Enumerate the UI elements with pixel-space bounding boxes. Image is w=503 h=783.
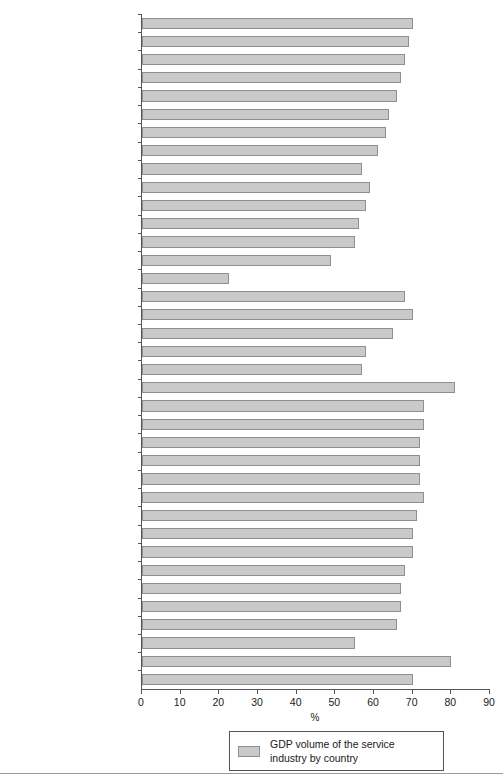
- bar-row: USA: [142, 652, 489, 670]
- y-axis-tick: [138, 360, 142, 361]
- bar: [142, 637, 355, 648]
- bar: [142, 127, 386, 138]
- bar-row: Portugal: [142, 579, 489, 597]
- bar: [142, 419, 424, 430]
- bar: [142, 510, 417, 521]
- y-axis-tick: [138, 142, 142, 143]
- x-axis-tick: [450, 689, 451, 694]
- y-axis-tick: [138, 69, 142, 70]
- x-axis-tick-label: 30: [237, 696, 277, 708]
- bar-row: Finland: [142, 616, 489, 634]
- legend-label-line1: GDP volume of the service: [270, 738, 395, 750]
- bar: [142, 583, 401, 594]
- bar-row: Austria: [142, 598, 489, 616]
- bar-row: Denmark: [142, 433, 489, 451]
- y-axis-tick: [138, 123, 142, 124]
- y-axis-tick: [138, 324, 142, 325]
- y-axis-tick: [138, 561, 142, 562]
- bar-row: Bulgaria: [142, 178, 489, 196]
- y-axis-tick: [138, 433, 142, 434]
- y-axis-tick: [138, 342, 142, 343]
- x-axis-tick-label: 90: [469, 696, 503, 708]
- y-axis-tick: [138, 452, 142, 453]
- bar: [142, 90, 397, 101]
- y-axis-tick: [138, 397, 142, 398]
- bar: [142, 218, 359, 229]
- x-axis-tick: [180, 689, 181, 694]
- bar-row: Luxembourg: [142, 379, 489, 397]
- y-axis-tick: [138, 488, 142, 489]
- bar: [142, 109, 389, 120]
- footer-divider: [0, 773, 503, 774]
- y-axis-tick: [138, 233, 142, 234]
- bar-row: Latvia: [142, 14, 489, 32]
- bar-row: Germany: [142, 525, 489, 543]
- x-axis-tick: [218, 689, 219, 694]
- bar-row: Bosnia and Herzegovina: [142, 196, 489, 214]
- bar-chart: LatviaEstoniaPolandHungarySlovakiaCroati…: [0, 0, 503, 783]
- bar: [142, 72, 401, 83]
- bar: [142, 473, 420, 484]
- bar-row: Greece: [142, 470, 489, 488]
- bar: [142, 601, 401, 612]
- bar: [142, 255, 331, 266]
- y-axis-tick: [138, 87, 142, 88]
- bar-row: Slovenia: [142, 142, 489, 160]
- bar-row: Lithuania: [142, 123, 489, 141]
- x-axis-tick: [489, 689, 490, 694]
- bar-row: Hungary: [142, 69, 489, 87]
- y-axis-tick: [138, 415, 142, 416]
- x-axis-tick-label: 0: [121, 696, 161, 708]
- x-axis-tick-label: 80: [430, 696, 470, 708]
- x-axis-tick-label: 50: [314, 696, 354, 708]
- bar-row: Norway: [142, 342, 489, 360]
- bar-row: UK: [142, 397, 489, 415]
- bar-row: Croatia: [142, 105, 489, 123]
- y-axis-tick: [138, 251, 142, 252]
- y-axis-tick: [138, 196, 142, 197]
- bar: [142, 382, 455, 393]
- y-axis-tick: [138, 105, 142, 106]
- x-axis-tick: [373, 689, 374, 694]
- legend-swatch-icon: [238, 746, 260, 757]
- y-axis-tick: [138, 215, 142, 216]
- bar-row: France: [142, 415, 489, 433]
- bar: [142, 36, 409, 47]
- x-axis-tick: [257, 689, 258, 694]
- bar: [142, 182, 370, 193]
- y-axis-tick: [138, 160, 142, 161]
- bar: [142, 656, 451, 667]
- y-axis-tick: [138, 470, 142, 471]
- bar-row: Malta: [142, 306, 489, 324]
- x-axis-tick-label: 40: [276, 696, 316, 708]
- bar-row: Sweden: [142, 506, 489, 524]
- y-axis-tick: [138, 579, 142, 580]
- y-axis-tick: [138, 306, 142, 307]
- bar-row: Slovakia: [142, 87, 489, 105]
- x-axis-tick-label: 20: [198, 696, 238, 708]
- bar-row: Canada: [142, 670, 489, 688]
- bar: [142, 200, 366, 211]
- x-axis-tick: [141, 689, 142, 694]
- bar-row: Switzerland: [142, 288, 489, 306]
- bar: [142, 346, 366, 357]
- bar: [142, 328, 393, 339]
- bar-row: Netherlands: [142, 488, 489, 506]
- bar-row: Spain: [142, 561, 489, 579]
- bar-row: Romania: [142, 233, 489, 251]
- bar-row: Ireland: [142, 634, 489, 652]
- x-axis-tick-label: 70: [392, 696, 432, 708]
- x-axis-tick-label: 10: [160, 696, 200, 708]
- bar: [142, 619, 397, 630]
- bar-rows: LatviaEstoniaPolandHungarySlovakiaCroati…: [142, 14, 489, 689]
- y-axis-tick: [138, 14, 142, 15]
- bar-row: Czech Republic: [142, 215, 489, 233]
- plot-area: LatviaEstoniaPolandHungarySlovakiaCroati…: [141, 14, 489, 689]
- bar-row: Turkey: [142, 360, 489, 378]
- bar-row: Italy: [142, 543, 489, 561]
- y-axis-tick: [138, 652, 142, 653]
- x-axis-tick-label: 60: [353, 696, 393, 708]
- bar-row: Belgium: [142, 452, 489, 470]
- bar-row: Macedonia: [142, 160, 489, 178]
- x-axis-tick: [334, 689, 335, 694]
